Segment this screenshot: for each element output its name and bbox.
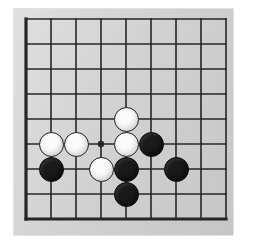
black-stone-c4-r6[interactable]	[114, 157, 139, 182]
go-board-figure	[0, 0, 256, 250]
white-stone-c3-r6[interactable]	[89, 157, 114, 182]
black-stone-c1-r6[interactable]	[39, 157, 64, 182]
black-stone-c4-r7[interactable]	[114, 182, 139, 207]
white-stone-c2-r5[interactable]	[64, 132, 89, 157]
black-stone-c5-r5[interactable]	[139, 132, 164, 157]
star-points	[98, 141, 104, 147]
black-stone-c6-r6[interactable]	[164, 157, 189, 182]
star-point-0	[98, 141, 104, 147]
white-stone-c4-r5[interactable]	[114, 132, 139, 157]
white-stone-c4-r4[interactable]	[114, 107, 139, 132]
white-stone-c1-r5[interactable]	[39, 132, 64, 157]
